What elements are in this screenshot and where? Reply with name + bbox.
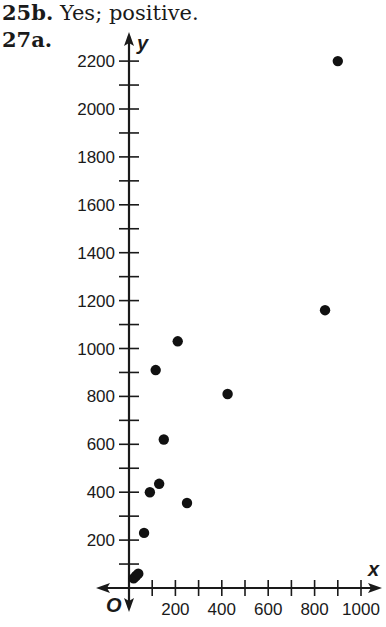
y-tick-label: 800 — [87, 387, 115, 406]
data-points — [128, 56, 343, 584]
data-point — [145, 487, 155, 497]
data-point — [139, 528, 149, 538]
y-tick-label: 600 — [87, 435, 115, 454]
x-tick-label: 400 — [208, 600, 236, 619]
x-tick-label: 600 — [254, 600, 282, 619]
tick-labels: 2004006008001000200400600800100012001400… — [77, 32, 380, 619]
y-tick-label: 1800 — [77, 148, 115, 167]
y-tick-label: 400 — [87, 483, 115, 502]
data-point — [150, 365, 160, 375]
y-tick-label: 1200 — [77, 292, 115, 311]
data-point — [222, 389, 232, 399]
axis-ticks — [119, 61, 361, 596]
x-tick-label: 200 — [161, 600, 189, 619]
y-axis-label: y — [136, 32, 149, 54]
data-point — [159, 434, 169, 444]
data-point — [154, 479, 164, 489]
data-point — [133, 568, 143, 578]
y-tick-label: 1600 — [77, 196, 115, 215]
x-tick-label: 1000 — [342, 600, 380, 619]
scatter-plot: 2004006008001000200400600800100012001400… — [0, 0, 386, 627]
data-point — [173, 336, 183, 346]
x-tick-label: 800 — [300, 600, 328, 619]
data-point — [333, 56, 343, 66]
x-axis-label: x — [367, 558, 380, 580]
y-tick-label: 2200 — [77, 52, 115, 71]
origin-label: O — [106, 594, 122, 616]
y-tick-label: 1400 — [77, 244, 115, 263]
y-tick-label: 1000 — [77, 340, 115, 359]
data-point — [182, 498, 192, 508]
y-tick-label: 200 — [87, 531, 115, 550]
axes — [96, 32, 382, 612]
data-point — [320, 305, 330, 315]
y-tick-label: 2000 — [77, 100, 115, 119]
